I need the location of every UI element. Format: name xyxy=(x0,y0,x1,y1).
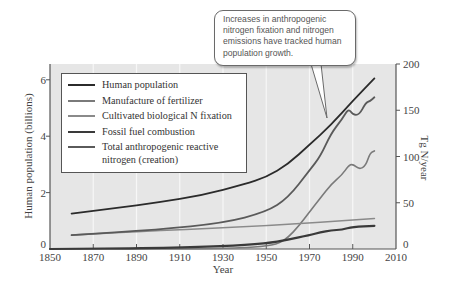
legend-item-fossil-fuel: Fossil fuel combustion xyxy=(68,125,246,141)
legend-label: Manufacture of fertilizer xyxy=(102,94,203,107)
x-tick-label: 1970 xyxy=(299,251,322,263)
x-tick-label: 1950 xyxy=(255,251,278,263)
callout-line: Increases in anthropogenic xyxy=(223,14,355,25)
right-tick-label: 0 xyxy=(403,238,409,250)
left-tick-label: 6 xyxy=(41,74,47,86)
y-axis-label-right: Tg N/year xyxy=(419,136,431,181)
legend-item-total-nitrogen: Total anthropogenic reactivenitrogen (cr… xyxy=(68,140,246,170)
legend-label: Total anthropogenic reactivenitrogen (cr… xyxy=(102,140,218,166)
left-tick-label: 0 xyxy=(41,238,47,250)
left-tick-label: 2 xyxy=(41,187,47,199)
legend-item-biological-fixation: Cultivated biological N fixation xyxy=(68,109,246,125)
right-tick-label: 150 xyxy=(403,104,420,116)
callout-line: population growth. xyxy=(223,48,355,59)
callout-line: nitrogen fixation and nitrogen xyxy=(223,25,355,36)
x-tick-label: 1850 xyxy=(39,251,62,263)
legend-swatch xyxy=(68,115,95,117)
legend-label: Cultivated biological N fixation xyxy=(102,109,232,122)
x-tick-label: 2010 xyxy=(385,251,408,263)
x-tick-label: 1930 xyxy=(212,251,235,263)
x-axis-label: Year xyxy=(213,263,234,275)
legend-swatch xyxy=(68,131,95,133)
right-tick-label: 50 xyxy=(403,197,415,209)
callout-line: emissions have tracked human xyxy=(223,36,355,47)
x-tick-label: 1910 xyxy=(169,251,192,263)
callout-annotation: Increases in anthropogenic nitrogen fixa… xyxy=(214,10,356,66)
left-tick-label: 4 xyxy=(41,130,47,142)
x-tick-label: 1990 xyxy=(342,251,365,263)
right-tick-label: 200 xyxy=(403,58,420,70)
legend-swatch xyxy=(68,146,95,148)
legend: Human population Manufacture of fertiliz… xyxy=(61,73,247,173)
x-tick-label: 1890 xyxy=(126,251,149,263)
x-tick-label: 1870 xyxy=(82,251,105,263)
legend-swatch xyxy=(68,84,95,86)
right-tick-label: 100 xyxy=(403,151,420,163)
legend-item-fertilizer: Manufacture of fertilizer xyxy=(68,94,246,110)
legend-item-human-population: Human population xyxy=(68,78,246,94)
legend-swatch xyxy=(68,100,95,102)
legend-label: Fossil fuel combustion xyxy=(102,125,195,138)
legend-label: Human population xyxy=(102,78,178,91)
y-axis-label-left: Human population (billions) xyxy=(22,93,35,219)
